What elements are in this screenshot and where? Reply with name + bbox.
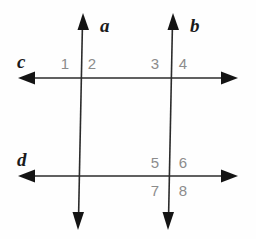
angle-number-4: 4 xyxy=(176,56,190,71)
line-d-arrow-right-icon xyxy=(221,170,238,183)
geometry-canvas xyxy=(0,0,256,239)
line-c-arrow-left-icon xyxy=(18,72,35,85)
line-a-segment xyxy=(79,22,83,220)
line-b-segment xyxy=(169,22,173,220)
line-label-a: a xyxy=(100,16,110,35)
angle-number-3: 3 xyxy=(148,56,162,71)
line-label-c: c xyxy=(17,52,25,71)
angle-number-8: 8 xyxy=(176,183,190,198)
line-label-b: b xyxy=(190,16,200,35)
angle-number-6: 6 xyxy=(176,155,190,170)
angle-number-1: 1 xyxy=(58,56,72,71)
angle-number-7: 7 xyxy=(148,183,162,198)
line-d xyxy=(18,170,238,183)
angle-number-5: 5 xyxy=(148,155,162,170)
geometry-diagram: a b c d 1 2 3 4 5 6 7 8 xyxy=(0,0,256,239)
line-label-d: d xyxy=(17,150,27,169)
line-c-arrow-right-icon xyxy=(221,72,238,85)
angle-number-2: 2 xyxy=(85,56,99,71)
line-b-arrow-top-icon xyxy=(168,13,180,30)
line-a-arrow-bottom-icon xyxy=(73,212,85,230)
line-a xyxy=(73,13,90,230)
line-d-arrow-left-icon xyxy=(18,170,35,183)
line-c xyxy=(18,72,238,85)
line-b-arrow-bottom-icon xyxy=(163,212,175,230)
line-a-arrow-top-icon xyxy=(78,13,90,30)
